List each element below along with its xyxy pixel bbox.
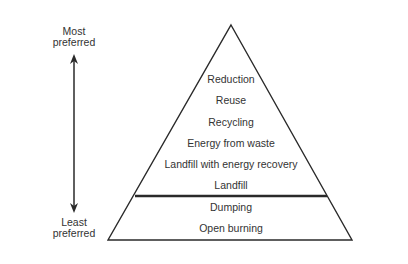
- preference-arrow: [70, 54, 78, 213]
- least-preferred-line2: preferred: [53, 228, 96, 239]
- level-energy-from-waste: Energy from waste: [187, 137, 275, 149]
- most-preferred-line2: preferred: [53, 37, 96, 48]
- level-open-burning: Open burning: [199, 222, 263, 234]
- level-reuse: Reuse: [216, 94, 246, 106]
- level-landfill-energy-recovery: Landfill with energy recovery: [164, 158, 297, 170]
- most-preferred-label: Most preferred: [53, 26, 96, 48]
- level-landfill: Landfill: [214, 179, 247, 191]
- level-reduction: Reduction: [207, 73, 254, 85]
- level-recycling: Recycling: [208, 116, 254, 128]
- level-dumping: Dumping: [210, 201, 252, 213]
- least-preferred-label: Least preferred: [53, 217, 96, 239]
